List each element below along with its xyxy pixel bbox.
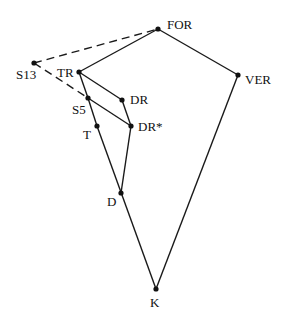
node-dot: [85, 95, 90, 100]
node-d: D: [107, 190, 124, 209]
edge-t-k: [97, 126, 156, 289]
node-label: FOR: [167, 17, 193, 32]
network-diagram: FORVERS13TRDRS5TDR*DK: [0, 0, 287, 321]
edge-tr-s5: [79, 72, 88, 98]
node-dot: [118, 190, 123, 195]
node-drstar: DR*: [128, 119, 162, 134]
node-label: S13: [16, 67, 36, 82]
edge-ver-k: [156, 75, 238, 289]
node-dot: [119, 97, 124, 102]
edge-s13-for: [34, 29, 158, 63]
edge-tr-dr: [79, 72, 122, 100]
node-for: FOR: [155, 17, 192, 32]
edge-drstar-d: [121, 126, 131, 193]
node-label: T: [83, 127, 91, 142]
node-dot: [235, 72, 240, 77]
node-label: VER: [245, 72, 271, 87]
node-label: S5: [72, 102, 86, 117]
node-s5: S5: [72, 95, 91, 117]
node-dot: [31, 60, 36, 65]
node-label: DR: [130, 92, 148, 107]
node-tr: TR: [57, 65, 82, 80]
node-dot: [155, 26, 160, 31]
node-label: TR: [57, 65, 74, 80]
node-k: K: [150, 286, 160, 310]
edge-for-ver: [158, 29, 238, 75]
node-t: T: [83, 123, 100, 142]
node-dot: [128, 123, 133, 128]
node-dot: [94, 123, 99, 128]
edge-s5-drstar: [88, 98, 131, 126]
node-s13: S13: [16, 60, 37, 82]
node-dot: [76, 69, 81, 74]
nodes: FORVERS13TRDRS5TDR*DK: [16, 17, 271, 310]
node-ver: VER: [235, 72, 271, 87]
node-label: K: [150, 295, 160, 310]
node-label: DR*: [138, 119, 163, 134]
edge-for-tr: [79, 29, 158, 72]
node-label: D: [107, 194, 116, 209]
node-dot: [153, 286, 158, 291]
